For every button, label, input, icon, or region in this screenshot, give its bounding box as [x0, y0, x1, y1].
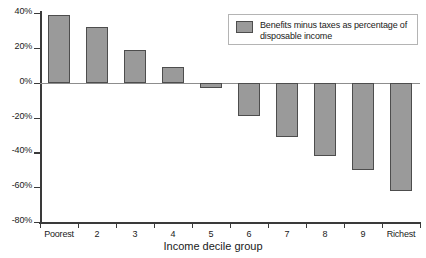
x-tick-label: 7 [268, 229, 306, 239]
bar-slot [78, 13, 116, 222]
x-tick-label: 4 [154, 229, 192, 239]
x-tick-label: 6 [230, 229, 268, 239]
x-tick-mark [78, 222, 79, 228]
bar [390, 83, 412, 191]
y-tick-label: -40% [12, 145, 32, 155]
x-tick-label: 9 [344, 229, 382, 239]
x-tick-label: 2 [78, 229, 116, 239]
bar-slot [154, 13, 192, 222]
x-tick-mark [344, 222, 345, 228]
y-tick-label: 40% [15, 6, 32, 16]
bar [124, 50, 146, 83]
y-tick-label: 20% [15, 41, 32, 51]
x-tick-mark [154, 222, 155, 228]
legend-label: Benefits minus taxes as percentage of di… [260, 20, 415, 42]
x-tick-mark [420, 222, 421, 228]
y-tick-label: 0% [19, 76, 32, 86]
bar-chart: 40%20%0%-20%-40%-60%-80% Poorest23456789… [0, 0, 426, 258]
bar [162, 67, 184, 83]
x-tick-mark [116, 222, 117, 228]
bar [200, 83, 222, 88]
bar-slot [192, 13, 230, 222]
x-tick-mark [382, 222, 383, 228]
x-tick-mark [40, 222, 41, 228]
x-tick-label: Richest [382, 229, 420, 239]
bar [314, 83, 336, 156]
bar-slot [116, 13, 154, 222]
bar [352, 83, 374, 170]
x-tick-label: 8 [306, 229, 344, 239]
bar-slot [40, 13, 78, 222]
bar [276, 83, 298, 137]
x-tick-mark [306, 222, 307, 228]
bar [86, 27, 108, 83]
x-tick-label: 3 [116, 229, 154, 239]
bar [48, 15, 70, 83]
bar [238, 83, 260, 116]
x-tick-label: 5 [192, 229, 230, 239]
legend-swatch-icon [236, 21, 253, 33]
y-tick-label: -20% [12, 111, 32, 121]
y-tick-label: -80% [12, 215, 32, 225]
x-tick-mark [268, 222, 269, 228]
x-tick-mark [192, 222, 193, 228]
x-axis-title: Income decile group [0, 240, 426, 252]
chart-legend: Benefits minus taxes as percentage of di… [228, 14, 418, 45]
y-tick-label: -60% [12, 180, 32, 190]
x-tick-mark [230, 222, 231, 228]
x-tick-label: Poorest [40, 229, 78, 239]
legend-label-line1: Benefits minus taxes as percentage [260, 20, 397, 30]
